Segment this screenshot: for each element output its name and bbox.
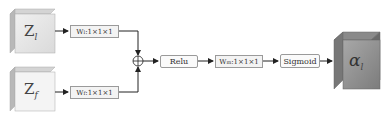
sigmoid-box: Sigmoid: [280, 54, 320, 68]
input-label-zf: Zf: [24, 80, 38, 100]
relu-box: Relu: [160, 55, 198, 68]
arrow-wl-to-sum: [119, 31, 138, 55]
input-label-zl: Zl: [24, 22, 37, 42]
arrow-wf-to-sum: [119, 67, 138, 92]
weight-box-wf: Wf:1×1×1: [70, 86, 119, 99]
output-label-alpha: αl: [349, 50, 363, 72]
weight-box-wl: Wl:1×1×1: [70, 25, 119, 38]
weight-box-wm: Wm:1×1×1: [215, 55, 263, 68]
